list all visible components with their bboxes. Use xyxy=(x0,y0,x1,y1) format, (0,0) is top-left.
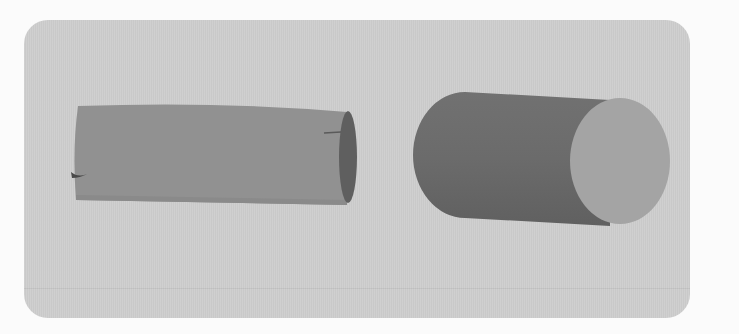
cylinders-illustration xyxy=(0,0,739,334)
right-cylinder xyxy=(413,92,670,226)
image-stage xyxy=(0,0,739,334)
left-cylinder xyxy=(71,104,357,205)
